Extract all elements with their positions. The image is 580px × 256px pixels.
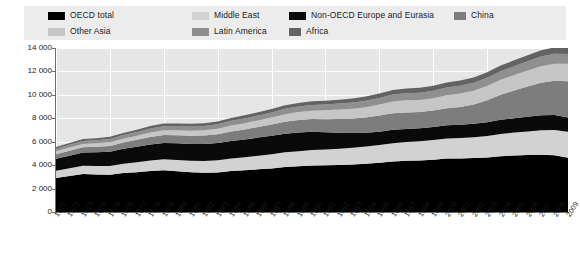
y-axis-tick: [52, 118, 55, 119]
y-axis-tick: [52, 48, 55, 49]
legend-item-label: Latin America: [214, 27, 267, 36]
legend-item-label: Other Asia: [70, 27, 111, 36]
y-axis-tick-label: 2 000: [6, 185, 52, 193]
chart-legend: OECD totalMiddle EastNon-OECD Europe and…: [24, 6, 566, 40]
legend-item-africa[interactable]: Africa: [289, 25, 328, 38]
stacked-area-series: [56, 48, 568, 212]
y-axis-tick-label: 14 000: [6, 44, 52, 52]
legend-swatch-icon: [192, 28, 209, 36]
legend-item-other-asia[interactable]: Other Asia: [48, 25, 111, 38]
x-axis-labels: 1971197219731974197519761977197819791980…: [0, 212, 578, 256]
y-axis-tick-label: 8 000: [6, 114, 52, 122]
y-axis-tick-label: 6 000: [6, 138, 52, 146]
legend-row-2: Other AsiaLatin AmericaAfrica: [24, 25, 566, 38]
y-axis-tick: [52, 189, 55, 190]
y-axis-tick-label: 10 000: [6, 91, 52, 99]
legend-item-china[interactable]: China: [454, 9, 494, 22]
legend-item-middle-east[interactable]: Middle East: [192, 9, 260, 22]
legend-item-label: Non-OECD Europe and Eurasia: [311, 11, 434, 20]
legend-swatch-icon: [192, 12, 209, 20]
y-axis-tick: [52, 142, 55, 143]
y-axis-tick: [52, 165, 55, 166]
y-axis-line: [55, 48, 56, 213]
legend-swatch-icon: [289, 12, 306, 20]
legend-item-label: OECD total: [70, 11, 114, 20]
legend-item-label: Africa: [306, 27, 328, 36]
legend-swatch-icon: [454, 12, 466, 20]
legend-item-oecd-total[interactable]: OECD total: [48, 9, 114, 22]
legend-item-label: China: [471, 11, 494, 20]
y-axis-tick: [52, 71, 55, 72]
y-axis-tick-label: 4 000: [6, 161, 52, 169]
legend-item-label: Middle East: [214, 11, 260, 20]
y-axis-tick-label: 12 000: [6, 67, 52, 75]
legend-row-1: OECD totalMiddle EastNon-OECD Europe and…: [24, 9, 566, 22]
plot-area: [56, 48, 568, 212]
legend-swatch-icon: [289, 28, 301, 36]
y-axis-tick: [52, 95, 55, 96]
legend-item-non-oecd-europe-and-eurasia[interactable]: Non-OECD Europe and Eurasia: [289, 9, 434, 22]
legend-item-latin-america[interactable]: Latin America: [192, 25, 267, 38]
y-axis-tick: [52, 212, 55, 213]
